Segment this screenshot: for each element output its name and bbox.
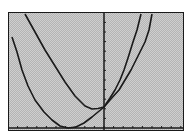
curve-2-line: [12, 14, 152, 128]
curve-1-line: [25, 14, 141, 109]
graph-plot: [0, 0, 194, 140]
y-axis: [104, 13, 106, 131]
x-axis: [9, 126, 184, 128]
